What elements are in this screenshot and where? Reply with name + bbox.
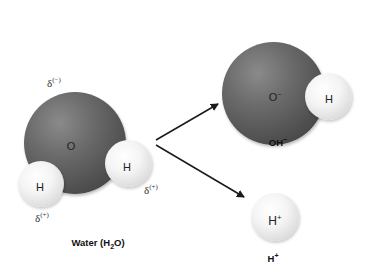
charge-sign: − bbox=[277, 91, 281, 98]
caption-text: H bbox=[268, 253, 275, 264]
hydroxide-caption: OH− bbox=[269, 136, 287, 148]
caption-text: OH bbox=[269, 137, 283, 148]
hydroxide-oxygen-label: O− bbox=[269, 91, 282, 104]
arrow-to-hydroxide bbox=[156, 104, 218, 140]
hydrogen-symbol: H bbox=[268, 214, 277, 228]
proton-caption: H+ bbox=[268, 252, 279, 264]
charge-sign: − bbox=[283, 136, 287, 143]
proton-label: H+ bbox=[268, 213, 281, 228]
charge-sign: + bbox=[277, 213, 282, 222]
oxygen-symbol: O bbox=[269, 91, 278, 103]
hydroxide-hydrogen-label: H bbox=[325, 93, 333, 105]
charge-sign: + bbox=[274, 252, 278, 259]
reaction-arrows bbox=[0, 0, 369, 270]
arrow-to-proton bbox=[156, 145, 244, 197]
